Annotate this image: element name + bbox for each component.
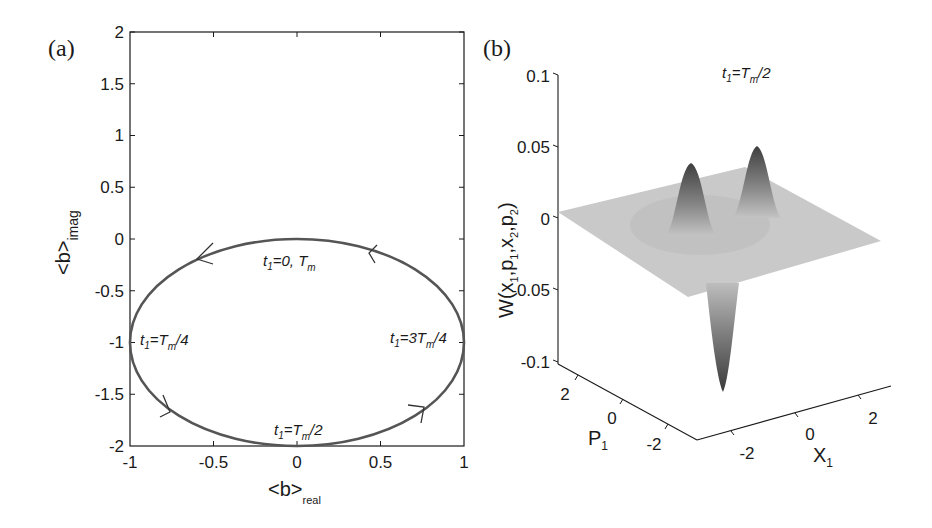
p1-axis-label: P1 [588, 427, 608, 453]
ztick-neg-0-05: -0.05 [511, 281, 550, 300]
p1-tick-2: 2 [560, 385, 569, 404]
x1-axis-label: X1 [813, 444, 833, 470]
panel-b: (b) t1=Tm/2 0.1 0.05 0 -0.05 -0.1 W(x1,p… [483, 35, 891, 470]
ytick-2: 2 [115, 23, 124, 42]
ytick-0-5: 0.5 [100, 178, 124, 197]
annotation-t1-tm2: t1=Tm/2 [274, 421, 323, 442]
panel-b-title: t1=Tm/2 [722, 64, 771, 85]
ytick-0: 0 [115, 230, 124, 249]
x1-ticks [731, 395, 861, 435]
ytick-neg-1-5: -1.5 [95, 385, 124, 404]
p1-ticks [575, 375, 668, 429]
ztick-neg-0-1: -0.1 [521, 353, 550, 372]
xtick-neg-1: -1 [122, 453, 137, 472]
ztick-0-05: 0.05 [517, 138, 550, 157]
ytick-1-5: 1.5 [100, 75, 124, 94]
x1-axis-line [697, 386, 891, 440]
xtick-0-5: 0.5 [369, 453, 393, 472]
ytick-1: 1 [115, 126, 124, 145]
xtick-neg-0-5: -0.5 [199, 453, 228, 472]
p1-tick-labels: 2 0 -2 [560, 385, 661, 454]
x1-tick-2: 2 [868, 409, 877, 428]
ztick-0: 0 [541, 210, 550, 229]
z-ticks [553, 73, 558, 362]
arrow-top-right-icon [369, 245, 377, 263]
xtick-1: 1 [459, 453, 468, 472]
direction-arrows [160, 243, 424, 423]
panel-a-xlabel: <b>real [268, 478, 321, 506]
x1-tick-labels: -2 0 2 [739, 409, 877, 463]
panel-a-xtick-labels: -1 -0.5 0 0.5 1 [122, 453, 468, 472]
annotation-t1-tm4: t1=Tm/4 [140, 331, 189, 352]
figure: (a) 2 1.5 1 0.5 0 -0.5 -1 [0, 0, 932, 528]
panel-b-zlabel: W(x1,p1,x2,p2) [495, 202, 520, 318]
panel-a-ytick-labels: 2 1.5 1 0.5 0 -0.5 -1 -1.5 -2 [95, 23, 124, 456]
annotation-t1-3tm4: t1=3Tm/4 [390, 329, 447, 350]
panel-b-label: (b) [483, 35, 511, 61]
annotation-t1-0: t1=0, Tm [263, 252, 316, 273]
p1-tick-0: 0 [607, 409, 616, 428]
ytick-neg-0-5: -0.5 [95, 282, 124, 301]
z-tick-labels: 0.1 0.05 0 -0.05 -0.1 [511, 67, 550, 372]
xtick-0: 0 [292, 453, 301, 472]
p1-tick-neg-2: -2 [646, 435, 661, 454]
wigner-surface [558, 146, 881, 392]
panel-a-label: (a) [48, 35, 75, 61]
x1-tick-neg-2: -2 [739, 444, 754, 463]
x1-tick-0: 0 [805, 425, 814, 444]
ytick-neg-1: -1 [109, 333, 124, 352]
surface-dip [706, 283, 739, 392]
p1-axis-line [558, 364, 697, 440]
panel-a-ylabel: <b>imag [52, 210, 81, 275]
panel-a: (a) 2 1.5 1 0.5 0 -0.5 -1 [48, 23, 469, 506]
ztick-0-1: 0.1 [526, 67, 550, 86]
